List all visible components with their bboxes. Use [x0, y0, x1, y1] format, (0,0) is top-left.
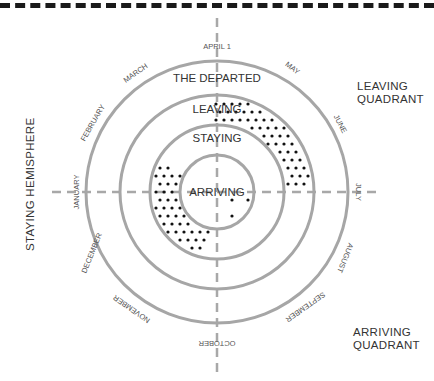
- label-staying: STAYING: [193, 132, 242, 144]
- leaving-quadrant-line2: QUADRANT: [357, 93, 424, 106]
- month-february: FEBRUARY: [79, 103, 107, 143]
- month-september: SEPTEMBER: [283, 290, 327, 324]
- label-arriving: ARRIVING: [189, 186, 245, 198]
- leaving-quadrant-line1: LEAVING: [357, 80, 424, 93]
- label-leaving: LEAVING: [193, 103, 242, 115]
- arriving-quadrant-line2: QUADRANT: [353, 339, 420, 352]
- month-october: OCTOBER: [198, 339, 236, 348]
- month-may: MAY: [284, 60, 302, 77]
- leaving-quadrant-label: LEAVING QUADRANT: [357, 80, 424, 106]
- arriving-quadrant-label: ARRIVING QUADRANT: [353, 326, 420, 352]
- staying-hemisphere-label: STAYING HEMISPHERE: [24, 131, 36, 251]
- month-july: JULY: [354, 183, 363, 201]
- month-january: JANUARY: [72, 175, 81, 210]
- month-november: NOVEMBER: [111, 293, 152, 325]
- cycle-diagram: THE DEPARTED LEAVING STAYING ARRIVING AP…: [0, 0, 434, 381]
- month-august: AUGUST: [335, 242, 355, 275]
- month-april: APRIL 1: [203, 42, 231, 51]
- label-the-departed: THE DEPARTED: [173, 72, 261, 84]
- arriving-quadrant-line1: ARRIVING: [353, 326, 420, 339]
